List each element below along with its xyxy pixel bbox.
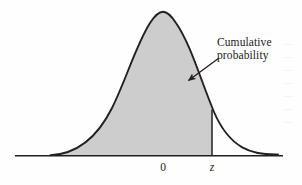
x-axis-tick-label-zero: 0 [153,161,173,173]
annotation-line-cumulative: Cumulative [217,36,272,50]
scan-edge-artifact [284,44,294,124]
cumulative-probability-shaded-area [51,12,213,155]
distribution-plot [0,0,302,185]
normal-curve-figure: Cumulative probability 0 z [0,0,302,185]
annotation-line-probability: probability [217,49,269,63]
x-axis-tick-label-z: z [202,161,222,173]
